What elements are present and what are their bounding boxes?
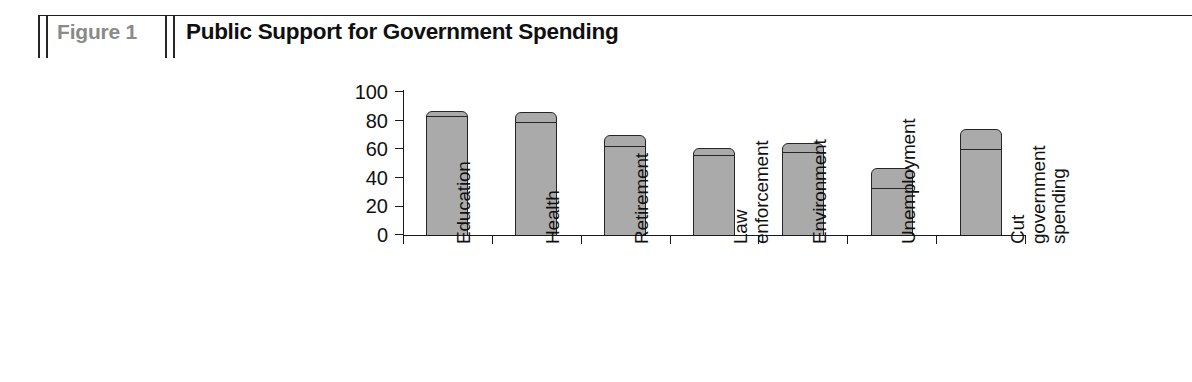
bar-segment-lower [960, 149, 1002, 235]
y-axis-tick [395, 177, 404, 178]
y-axis-tick-label: 0 [340, 225, 388, 245]
x-axis-label: Unemployment [899, 104, 920, 244]
x-axis-label: Environment [810, 104, 831, 244]
y-axis-tick-label: 60 [340, 139, 388, 159]
y-axis-tick-label: 100 [340, 82, 388, 102]
x-axis-label: Cut government spending [1008, 104, 1070, 244]
bar [693, 148, 735, 235]
y-axis-tick [395, 148, 404, 149]
x-axis-label: Education [454, 104, 475, 244]
x-axis-label: Health [543, 104, 564, 244]
y-axis-tick [395, 120, 404, 121]
x-axis-line [403, 235, 1025, 236]
x-axis-tick [936, 235, 937, 244]
y-axis-tick-label: 20 [340, 196, 388, 216]
x-axis-tick [492, 235, 493, 244]
y-axis-line [403, 90, 404, 237]
x-axis-tick [847, 235, 848, 244]
y-axis-tick-label: 80 [340, 111, 388, 131]
x-axis-tick [670, 235, 671, 244]
bar-chart: 020406080100 EducationHealthRetirementLa… [0, 0, 1192, 382]
y-axis-tick [395, 206, 404, 207]
x-axis-tick [403, 235, 404, 244]
y-axis-tick [395, 91, 404, 92]
y-axis-tick-label: 40 [340, 168, 388, 188]
bar-segment-lower [693, 155, 735, 235]
x-axis-label: Retirement [632, 104, 653, 244]
x-axis-label: Law enforcement [731, 104, 772, 244]
x-axis-tick [581, 235, 582, 244]
bar-segment-upper [960, 129, 1002, 151]
bar [960, 129, 1002, 235]
